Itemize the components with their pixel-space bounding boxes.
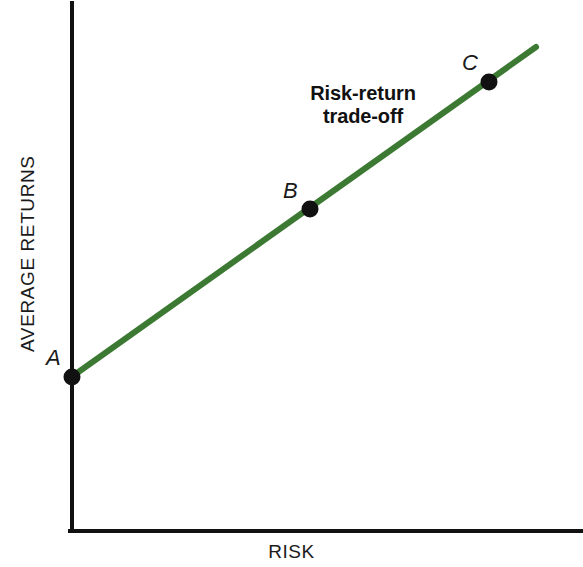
point-label-a: A <box>46 345 61 371</box>
point-label-c: C <box>462 50 478 76</box>
data-point-a <box>64 369 81 386</box>
annotation-line-2: trade-off <box>290 105 436 128</box>
x-axis-title: RISK <box>0 541 583 563</box>
annotation-line-1: Risk-return <box>290 82 436 105</box>
risk-return-chart: Risk-return trade-off A B C RISK AVERAGE… <box>0 0 583 567</box>
y-axis-title-wrapper: AVERAGE RETURNS <box>17 172 41 352</box>
data-point-c <box>481 74 498 91</box>
y-axis-title: AVERAGE RETURNS <box>17 172 39 352</box>
trade-off-annotation: Risk-return trade-off <box>290 82 436 128</box>
point-label-b: B <box>283 178 298 204</box>
data-point-b <box>302 201 319 218</box>
